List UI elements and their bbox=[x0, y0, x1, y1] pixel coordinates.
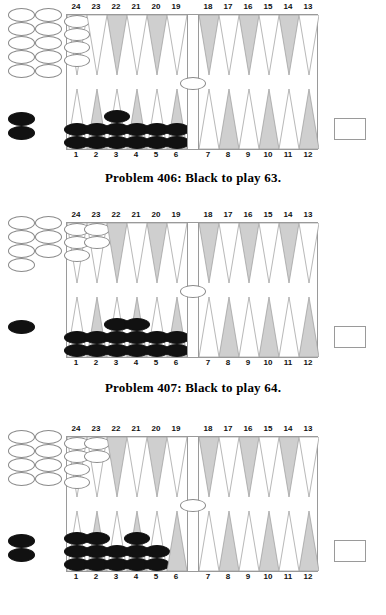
point-number-16: 16 bbox=[238, 424, 258, 433]
point-number-5: 5 bbox=[146, 572, 166, 581]
point-15[interactable] bbox=[259, 223, 279, 283]
point-15[interactable] bbox=[259, 437, 279, 497]
bar-checker-white[interactable] bbox=[180, 285, 206, 298]
borne-off-checker-black bbox=[8, 320, 35, 334]
point-8[interactable] bbox=[219, 89, 239, 149]
point-7[interactable] bbox=[199, 511, 219, 571]
point-number-7: 7 bbox=[198, 572, 218, 581]
point-10[interactable] bbox=[259, 297, 279, 357]
point-22[interactable] bbox=[107, 223, 127, 283]
problem-406-white-off-tray bbox=[8, 8, 64, 78]
point-stack-6[interactable] bbox=[167, 331, 187, 357]
point-18[interactable] bbox=[199, 223, 219, 283]
point-stack-5[interactable] bbox=[147, 545, 167, 571]
point-13[interactable] bbox=[299, 223, 319, 283]
point-16[interactable] bbox=[239, 223, 259, 283]
point-21[interactable] bbox=[127, 437, 147, 497]
point-14[interactable] bbox=[279, 437, 299, 497]
point-12[interactable] bbox=[299, 89, 319, 149]
point-20[interactable] bbox=[147, 437, 167, 497]
point-9[interactable] bbox=[239, 89, 259, 149]
backgammon-problem-page: 2423222120191817161514131234567891011122… bbox=[0, 0, 386, 615]
point-10[interactable] bbox=[259, 511, 279, 571]
point-number-20: 20 bbox=[146, 210, 166, 219]
point-6[interactable] bbox=[167, 297, 187, 357]
point-number-1: 1 bbox=[66, 358, 86, 367]
point-11[interactable] bbox=[279, 297, 299, 357]
point-7[interactable] bbox=[199, 297, 219, 357]
point-number-14: 14 bbox=[278, 424, 298, 433]
bar-checker-white[interactable] bbox=[180, 77, 206, 90]
point-stack-24[interactable] bbox=[67, 15, 87, 67]
borne-off-checker bbox=[35, 8, 62, 22]
point-8[interactable] bbox=[219, 511, 239, 571]
point-22[interactable] bbox=[107, 437, 127, 497]
point-16[interactable] bbox=[239, 15, 259, 75]
point-number-8: 8 bbox=[218, 150, 238, 159]
point-number-23: 23 bbox=[86, 210, 106, 219]
point-19[interactable] bbox=[167, 15, 187, 75]
point-17[interactable] bbox=[219, 437, 239, 497]
problem-407-caption: Problem 407: Black to play 64. bbox=[0, 380, 386, 396]
point-15[interactable] bbox=[259, 15, 279, 75]
point-number-9: 9 bbox=[238, 150, 258, 159]
point-23[interactable] bbox=[87, 15, 107, 75]
bar-checker-white[interactable] bbox=[180, 499, 206, 512]
point-23[interactable] bbox=[87, 223, 107, 283]
point-number-22: 22 bbox=[106, 2, 126, 11]
point-12[interactable] bbox=[299, 511, 319, 571]
point-11[interactable] bbox=[279, 89, 299, 149]
problem-406-home-tray[interactable] bbox=[334, 118, 366, 140]
problem-406-bar[interactable] bbox=[187, 15, 199, 149]
point-stack-23[interactable] bbox=[87, 437, 107, 463]
problem-408-home-tray[interactable] bbox=[334, 540, 366, 562]
point-21[interactable] bbox=[127, 223, 147, 283]
point-18[interactable] bbox=[199, 437, 219, 497]
point-number-11: 11 bbox=[278, 358, 298, 367]
point-7[interactable] bbox=[199, 89, 219, 149]
point-21[interactable] bbox=[127, 15, 147, 75]
point-19[interactable] bbox=[167, 223, 187, 283]
problem-407-black-off-tray bbox=[8, 320, 38, 334]
point-12[interactable] bbox=[299, 297, 319, 357]
point-14[interactable] bbox=[279, 223, 299, 283]
point-10[interactable] bbox=[259, 89, 279, 149]
point-9[interactable] bbox=[239, 297, 259, 357]
point-16[interactable] bbox=[239, 437, 259, 497]
borne-off-checker bbox=[35, 64, 62, 78]
point-number-18: 18 bbox=[198, 424, 218, 433]
problem-407-home-tray[interactable] bbox=[334, 326, 366, 348]
point-number-17: 17 bbox=[218, 424, 238, 433]
point-8[interactable] bbox=[219, 297, 239, 357]
point-14[interactable] bbox=[279, 15, 299, 75]
point-number-24: 24 bbox=[66, 210, 86, 219]
point-number-19: 19 bbox=[166, 2, 186, 11]
point-13[interactable] bbox=[299, 437, 319, 497]
point-23[interactable] bbox=[87, 437, 107, 497]
point-6[interactable] bbox=[167, 511, 187, 571]
borne-off-checker bbox=[8, 216, 35, 230]
point-20[interactable] bbox=[147, 223, 167, 283]
point-19[interactable] bbox=[167, 437, 187, 497]
point-17[interactable] bbox=[219, 15, 239, 75]
problem-407-bar[interactable] bbox=[187, 223, 199, 357]
problem-408-white-off-tray bbox=[8, 430, 64, 486]
borne-off-checker bbox=[35, 216, 62, 230]
point-6[interactable] bbox=[167, 89, 187, 149]
point-24[interactable] bbox=[67, 15, 87, 75]
point-18[interactable] bbox=[199, 15, 219, 75]
point-5[interactable] bbox=[147, 511, 167, 571]
point-9[interactable] bbox=[239, 511, 259, 571]
point-22[interactable] bbox=[107, 15, 127, 75]
point-number-4: 4 bbox=[126, 572, 146, 581]
borne-off-checker bbox=[35, 244, 62, 258]
point-stack-6[interactable] bbox=[167, 123, 187, 149]
point-17[interactable] bbox=[219, 223, 239, 283]
point-stack-23[interactable] bbox=[87, 223, 107, 249]
point-20[interactable] bbox=[147, 15, 167, 75]
point-number-12: 12 bbox=[298, 572, 318, 581]
point-13[interactable] bbox=[299, 15, 319, 75]
point-11[interactable] bbox=[279, 511, 299, 571]
problem-408-bar[interactable] bbox=[187, 437, 199, 571]
borne-off-checker bbox=[8, 36, 35, 50]
